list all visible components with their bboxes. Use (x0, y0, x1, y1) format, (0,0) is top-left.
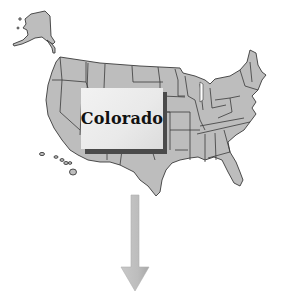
colorado-callout: Colorado (81, 88, 163, 149)
lake-michigan (200, 82, 203, 102)
down-arrow-icon (118, 193, 152, 293)
state-label: Colorado (81, 109, 163, 128)
hawaii (40, 152, 77, 175)
